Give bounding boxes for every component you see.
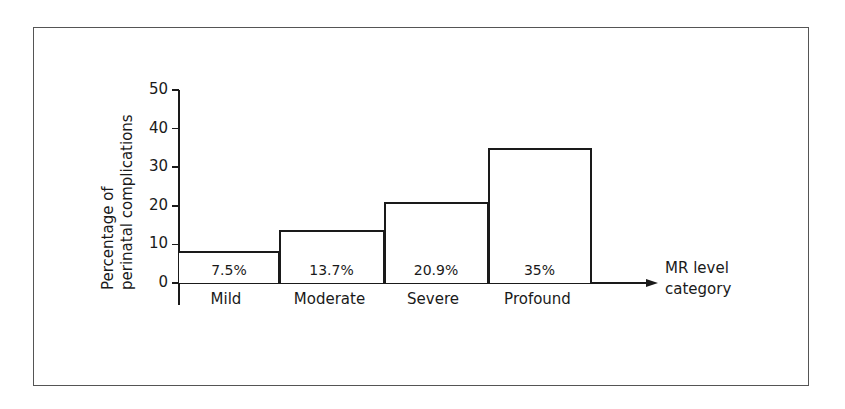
y-tick-label: 20	[138, 197, 168, 213]
x-category-label: Profound	[486, 291, 589, 307]
y-axis-label-line-2: perinatal complications	[118, 50, 137, 290]
y-tick-label: 30	[138, 158, 168, 174]
x-category-label: Mild	[176, 291, 276, 307]
y-tick-mark	[172, 282, 179, 284]
x-axis-label-line-2: category	[665, 279, 731, 300]
x-axis-arrow-icon	[646, 279, 658, 287]
y-axis-label: Percentage of perinatal complications	[99, 50, 137, 290]
x-axis-label-line-1: MR level	[665, 258, 731, 279]
x-category-label: Moderate	[277, 291, 382, 307]
y-tick-label: 40	[138, 120, 168, 136]
bar-value-label: 13.7%	[279, 262, 384, 278]
y-tick-mark	[172, 128, 179, 130]
x-axis-label: MR level category	[665, 258, 731, 300]
y-tick-mark	[172, 166, 179, 168]
bar-value-label: 35%	[488, 262, 591, 278]
y-tick-label: 10	[138, 235, 168, 251]
y-tick-label: 50	[138, 81, 168, 97]
y-tick-label: 0	[138, 274, 168, 290]
y-tick-mark	[172, 244, 179, 246]
x-category-label: Severe	[381, 291, 485, 307]
bar-value-label: 7.5%	[179, 262, 279, 278]
y-tick-mark	[172, 89, 179, 91]
bar-value-label: 20.9%	[384, 262, 488, 278]
y-axis-label-line-1: Percentage of	[99, 50, 118, 290]
y-tick-mark	[172, 205, 179, 207]
